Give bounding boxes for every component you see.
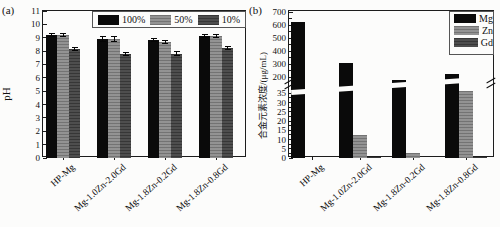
y-tick-label: 35 bbox=[262, 88, 286, 98]
legend-item-gd: Gd bbox=[454, 37, 493, 48]
error-bar-cap bbox=[202, 37, 208, 38]
y-tick-label: 6 bbox=[16, 73, 40, 83]
y-tick-label: 9 bbox=[16, 33, 40, 43]
legend-b: Mg Zn Gd bbox=[449, 11, 494, 55]
y-tick-label: 11 bbox=[16, 6, 40, 16]
panel-a-label: (a) bbox=[2, 4, 14, 16]
error-bar-cap bbox=[100, 36, 106, 37]
bar-50%-Mg-1.0Zn-2.0Gd bbox=[108, 39, 120, 158]
y-tick-label: 0 bbox=[16, 153, 40, 163]
error-bar-cap bbox=[111, 41, 117, 42]
legend-item-zn: Zn bbox=[454, 25, 493, 36]
legend-swatch-100pct bbox=[98, 15, 119, 25]
y-tick-label: 200 bbox=[262, 72, 286, 82]
bar-100%-Mg-1.8Zn-0.2Gd bbox=[148, 40, 160, 158]
error-bar-cap bbox=[174, 55, 180, 56]
legend-item-10pct: 10% bbox=[198, 14, 240, 25]
error-bar-cap bbox=[72, 47, 78, 48]
axis-break-mark bbox=[486, 83, 495, 89]
legend-swatch-mg bbox=[454, 14, 476, 23]
error-bar-cap bbox=[111, 36, 117, 37]
error-bar-cap bbox=[100, 41, 106, 42]
error-bar-cap bbox=[162, 40, 168, 41]
y-tick-label: 10 bbox=[262, 135, 286, 145]
y-tick-label: 5 bbox=[262, 144, 286, 154]
error-bar-cap bbox=[151, 38, 157, 39]
bar-10%-HP-Mg bbox=[69, 49, 81, 158]
y-tick-label: 10 bbox=[16, 19, 40, 29]
bar-Gd-Mg-1.0Zn-2.0Gd bbox=[367, 157, 381, 158]
y-tick-label: 700 bbox=[262, 7, 286, 17]
error-bar-cap bbox=[60, 33, 66, 34]
plot-area-b: Mg Zn Gd 0510152025303520030040050060070… bbox=[288, 10, 494, 157]
y-tick-label: 30 bbox=[262, 98, 286, 108]
y-tick-label: 7 bbox=[16, 59, 40, 69]
legend-swatch-10pct bbox=[198, 15, 219, 25]
bar-100%-Mg-1.8Zn-0.8Gd bbox=[199, 36, 211, 158]
legend-item-mg: Mg bbox=[454, 13, 493, 24]
y-tick-label: 8 bbox=[16, 46, 40, 56]
legend-label-zn: Zn bbox=[482, 25, 493, 36]
bar-10%-Mg-1.8Zn-0.8Gd bbox=[222, 48, 234, 158]
error-bar-cap bbox=[123, 55, 129, 56]
error-bar-cap bbox=[202, 34, 208, 35]
bar-10%-Mg-1.8Zn-0.2Gd bbox=[171, 54, 183, 158]
y-tick-label: 600 bbox=[262, 20, 286, 30]
error-bar-cap bbox=[60, 36, 66, 37]
error-bar-cap bbox=[151, 41, 157, 42]
legend-item-100pct: 100% bbox=[98, 14, 145, 25]
bar-10%-Mg-1.0Zn-2.0Gd bbox=[120, 54, 132, 158]
y-axis-label-a: pH bbox=[0, 87, 12, 100]
legend-item-50pct: 50% bbox=[150, 14, 192, 25]
bar-50%-Mg-1.8Zn-0.2Gd bbox=[159, 42, 171, 158]
legend-label-mg: Mg bbox=[479, 13, 493, 24]
legend-a: 100% 50% 10% bbox=[92, 11, 246, 28]
bar-Zn-Mg-1.8Zn-0.8Gd bbox=[459, 91, 473, 158]
y-tick-label: 2 bbox=[16, 126, 40, 136]
legend-swatch-50pct bbox=[150, 15, 171, 25]
error-bar-cap bbox=[49, 36, 55, 37]
bar-50%-HP-Mg bbox=[57, 35, 69, 158]
y-tick-label: 25 bbox=[262, 107, 286, 117]
legend-label-100pct: 100% bbox=[122, 14, 145, 25]
error-bar-cap bbox=[174, 51, 180, 52]
y-tick-label: 1 bbox=[16, 140, 40, 150]
bar-Mg-Mg-1.8Zn-0.8Gd bbox=[445, 74, 459, 158]
bar-Gd-Mg-1.8Zn-0.8Gd bbox=[473, 157, 487, 158]
legend-label-gd: Gd bbox=[481, 37, 493, 48]
legend-swatch-gd bbox=[454, 38, 478, 47]
error-bar-cap bbox=[49, 33, 55, 34]
y-tick bbox=[43, 11, 47, 12]
x-tick-label: Mg-1.8Zn-0.8Gd bbox=[141, 162, 229, 227]
bar-50%-Mg-1.8Zn-0.8Gd bbox=[210, 36, 222, 158]
x-tick-label: Mg-1.8Zn-0.8Gd bbox=[391, 162, 479, 227]
y-tick bbox=[43, 24, 47, 25]
y-tick bbox=[289, 12, 293, 13]
y-tick-label: 0 bbox=[262, 153, 286, 163]
y-tick-label: 20 bbox=[262, 116, 286, 126]
legend-label-50pct: 50% bbox=[174, 14, 192, 25]
y-tick-label: 300 bbox=[262, 59, 286, 69]
panel-b-label: (b) bbox=[249, 4, 262, 16]
bar-Zn-Mg-1.8Zn-0.2Gd bbox=[406, 153, 420, 158]
x-tick bbox=[312, 157, 313, 160]
error-bar-cap bbox=[213, 37, 219, 38]
figure-canvas: (a) pH 100% 50% 10% 01234567891011 (b) 合… bbox=[0, 0, 500, 227]
error-bar-cap bbox=[123, 52, 129, 53]
y-tick-label: 400 bbox=[262, 46, 286, 56]
bar-100%-HP-Mg bbox=[46, 35, 58, 158]
error-bar-cap bbox=[213, 34, 219, 35]
bar-Mg-Mg-1.0Zn-2.0Gd bbox=[339, 63, 353, 158]
y-tick-label: 500 bbox=[262, 33, 286, 43]
error-bar-cap bbox=[72, 50, 78, 51]
legend-label-10pct: 10% bbox=[222, 14, 240, 25]
bar-100%-Mg-1.0Zn-2.0Gd bbox=[97, 39, 109, 158]
bar-Mg-Mg-1.8Zn-0.2Gd bbox=[392, 80, 406, 158]
y-tick-label: 15 bbox=[262, 125, 286, 135]
error-bar-cap bbox=[225, 49, 231, 50]
legend-swatch-zn bbox=[454, 26, 479, 35]
y-tick-label: 3 bbox=[16, 113, 40, 123]
error-bar-cap bbox=[162, 43, 168, 44]
error-bar-cap bbox=[225, 46, 231, 47]
plot-area-a: 100% 50% 10% 01234567891011 bbox=[42, 10, 246, 157]
